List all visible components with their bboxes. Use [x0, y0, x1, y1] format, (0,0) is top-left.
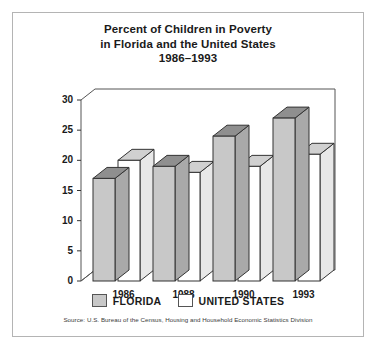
- y-axis-tick-5: 5: [47, 245, 73, 256]
- legend-swatch-florida: [92, 294, 107, 307]
- y-axis-tick-30: 30: [47, 94, 73, 105]
- chart-title-line-3: 1986–1993: [13, 51, 363, 66]
- y-axis-tick-15: 15: [47, 185, 73, 196]
- bar-chart-svg: [71, 83, 343, 295]
- chart-title-line-2: in Florida and the United States: [13, 37, 363, 52]
- y-axis-tick-0: 0: [47, 275, 73, 286]
- source-note: Source: U.S. Bureau of the Census, Housi…: [13, 316, 363, 323]
- chart-figure: Percent of Children in Poverty in Florid…: [12, 12, 364, 337]
- chart-title-line-1: Percent of Children in Poverty: [13, 22, 363, 37]
- chart-legend: FLORIDA UNITED STATES: [13, 294, 363, 307]
- y-axis-tick-20: 20: [47, 154, 73, 165]
- y-axis-tick-25: 25: [47, 124, 73, 135]
- y-axis-tick-10: 10: [47, 215, 73, 226]
- legend-item-florida: FLORIDA: [92, 294, 162, 307]
- plot-area: 051015202530 1986198819901993: [71, 83, 343, 295]
- legend-label-united-states: UNITED STATES: [199, 295, 285, 307]
- legend-item-united-states: UNITED STATES: [178, 294, 285, 307]
- legend-swatch-united-states: [178, 294, 193, 307]
- chart-title: Percent of Children in Poverty in Florid…: [13, 22, 363, 66]
- legend-label-florida: FLORIDA: [113, 295, 162, 307]
